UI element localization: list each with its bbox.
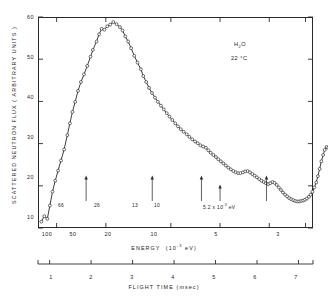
energy-tick-label-5: 5 — [206, 231, 226, 237]
flight-tick-label-2: 2 — [84, 274, 98, 280]
neutron-flux-figure: SCATTERED NEUTRON FLUX ( ARBITRARY UNITS… — [0, 0, 328, 297]
arrow-label-10: 10 — [146, 203, 168, 208]
plot-canvas — [0, 0, 328, 297]
flight-tick-label-1: 1 — [44, 274, 58, 280]
flight-time-axis-title: FLIGHT TIME (msec) — [0, 284, 328, 290]
arrow-label-26: 26 — [86, 203, 108, 208]
data-curve — [41, 22, 328, 222]
flight-tick-label-3: 3 — [125, 274, 139, 280]
energy-axis-title: ENERGY (10-3 eV) — [0, 243, 328, 251]
flight-tick-label-4: 4 — [166, 274, 180, 280]
flight-tick-label-5: 5 — [207, 274, 221, 280]
annotation-arrows — [84, 175, 268, 201]
temperature-label: 22 °C — [231, 55, 248, 61]
energy-tick-label-3: 3 — [268, 231, 288, 237]
energy-axis-title-tail: eV) — [183, 245, 197, 251]
energy-tick-label-50: 50 — [63, 231, 83, 237]
sample-label: H2O — [234, 41, 246, 49]
arrow-label-13: 13 — [124, 203, 146, 208]
flight-tick-label-7: 7 — [289, 274, 303, 280]
energy-tick-label-10: 10 — [144, 231, 164, 237]
flight-time-axis — [38, 260, 313, 264]
energy-tick-label-100: 100 — [37, 231, 57, 237]
flight-tick-label-6: 6 — [248, 274, 262, 280]
arrow-label-66: 66 — [50, 203, 72, 208]
energy-axis-title-main: ENERGY — [131, 245, 160, 251]
energy-axis-title-units: (10 — [166, 245, 177, 251]
data-point-markers — [40, 21, 328, 224]
energy-tick-label-20: 20 — [98, 231, 118, 237]
arrow-label-5.2: 5.2 x 10-3 eV — [203, 203, 273, 210]
